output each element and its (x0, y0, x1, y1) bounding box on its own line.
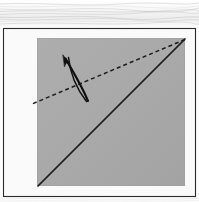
diagram-canvas (0, 0, 199, 202)
wood-grain-surface (0, 0, 199, 28)
